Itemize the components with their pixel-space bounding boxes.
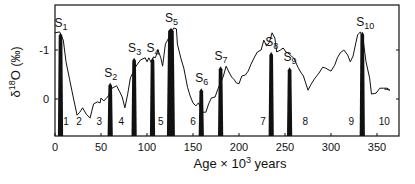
- y-tick-label: -1: [39, 44, 49, 56]
- stage-label-6: 6: [190, 116, 196, 127]
- stage-label-1: 1: [63, 116, 69, 127]
- x-tick-label: 250: [276, 141, 294, 153]
- peak-label-s8: S8: [265, 35, 278, 51]
- peak-label-s4: S4: [147, 41, 160, 57]
- stage-label-8: 8: [302, 116, 308, 127]
- x-tick-label: 300: [322, 141, 340, 153]
- x-tick-label: 0: [52, 141, 58, 153]
- stage-label-4: 4: [118, 116, 124, 127]
- stage-label-9: 9: [348, 116, 354, 127]
- x-tick-label: 200: [230, 141, 248, 153]
- stage-label-10: 10: [379, 116, 391, 127]
- peak-labels: S1S2S3S4S5S6S7S8S9S10: [55, 11, 375, 87]
- x-tick-label: 50: [95, 141, 107, 153]
- peak-label-s7: S7: [215, 49, 228, 65]
- stage-label-2: 2: [76, 116, 82, 127]
- peak-bar-s9: [287, 67, 292, 136]
- peak-label-s3: S3: [128, 41, 141, 57]
- peak-bar-s7: [218, 66, 223, 136]
- stage-label-7: 7: [260, 116, 266, 127]
- peak-bars: [58, 28, 365, 136]
- stage-label-5: 5: [158, 116, 164, 127]
- oxygen-isotope-chart: 050100150200250300350 -10 S1S2S3S4S5S6S7…: [0, 0, 415, 184]
- peak-label-s10: S10: [356, 15, 374, 31]
- y-axis-label: δ18O (‰): [7, 46, 23, 97]
- peak-label-s5: S5: [165, 11, 178, 27]
- peak-label-s9: S9: [284, 50, 297, 66]
- peak-bar-s4: [150, 58, 155, 136]
- peak-label-s6: S6: [195, 71, 208, 87]
- stage-label-3: 3: [96, 116, 102, 127]
- peak-bar-s5: [167, 28, 175, 136]
- x-tick-label: 100: [138, 141, 156, 153]
- peak-label-s2: S2: [104, 66, 117, 82]
- x-tick-label: 150: [184, 141, 202, 153]
- x-axis-label: Age × 103 years: [194, 155, 287, 171]
- peak-label-s1: S1: [55, 16, 68, 32]
- peak-bar-s2: [108, 83, 113, 136]
- x-tick-label: 350: [368, 141, 386, 153]
- chart-svg: 050100150200250300350 -10 S1S2S3S4S5S6S7…: [0, 0, 415, 184]
- y-tick-label: 0: [43, 93, 49, 105]
- peak-bar-s8: [269, 52, 274, 136]
